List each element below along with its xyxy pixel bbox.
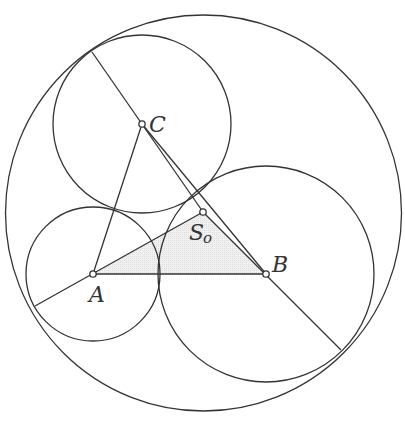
label-b: B xyxy=(271,252,288,277)
label-a: A xyxy=(87,282,105,307)
point-a xyxy=(90,271,96,277)
point-c xyxy=(139,121,145,127)
line-outer-c-s0 xyxy=(92,52,203,212)
line-s0-b-outer xyxy=(203,212,341,350)
tangent-circles-diagram: C B A S o xyxy=(0,0,405,421)
point-b xyxy=(263,271,269,277)
point-s0 xyxy=(200,209,206,215)
label-s0-subscript: o xyxy=(203,229,212,247)
label-s0: S xyxy=(189,220,204,245)
label-c: C xyxy=(149,112,166,137)
